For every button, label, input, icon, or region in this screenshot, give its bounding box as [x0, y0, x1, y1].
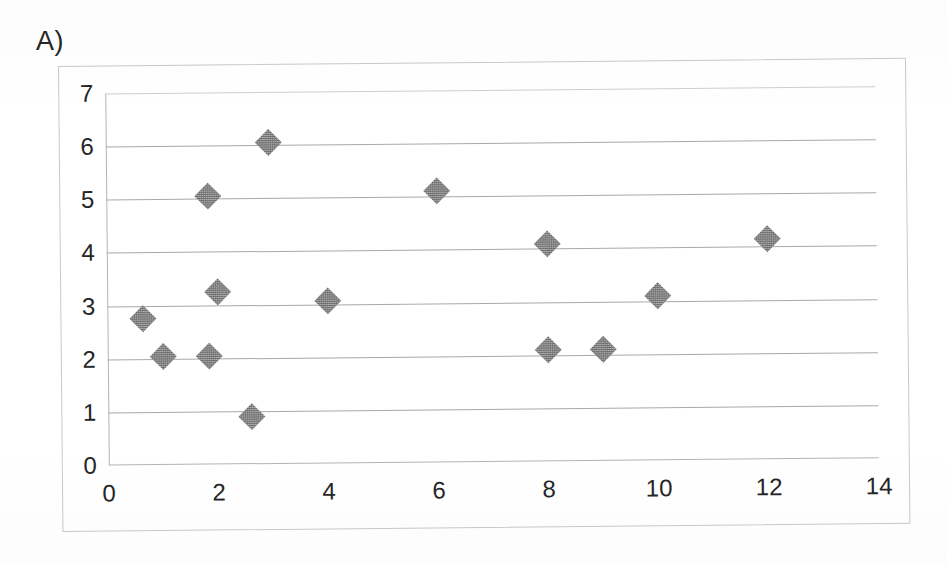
y-tick-label-7: 7 — [80, 82, 94, 106]
data-point — [423, 178, 450, 205]
data-point — [255, 129, 282, 156]
gridline-y-1 — [108, 405, 878, 413]
data-point — [130, 306, 157, 333]
y-tick-label-2: 2 — [82, 347, 96, 371]
x-tick-label-12: 12 — [756, 475, 783, 499]
y-axis-line — [105, 94, 110, 466]
y-tick-label-3: 3 — [82, 294, 96, 318]
x-tick-label-10: 10 — [646, 476, 673, 500]
y-tick-label-1: 1 — [83, 400, 97, 424]
data-point — [195, 183, 222, 210]
gridline-y-2 — [108, 352, 878, 360]
chart-canvas: 01234567 02468101214 — [58, 58, 910, 532]
x-tick-label-2: 2 — [212, 480, 226, 504]
y-tick-label-0: 0 — [83, 454, 97, 478]
gridline-y-7 — [105, 86, 875, 94]
x-tick-label-0: 0 — [102, 481, 116, 505]
gridline-y-5 — [106, 192, 876, 200]
x-tick-label-8: 8 — [542, 477, 556, 501]
data-point — [204, 278, 231, 305]
x-tick-label-6: 6 — [432, 478, 446, 502]
y-tick-label-4: 4 — [81, 241, 95, 265]
plot-area: 01234567 02468101214 — [105, 86, 879, 465]
data-point — [149, 343, 176, 370]
data-point — [533, 230, 560, 257]
x-tick-label-4: 4 — [322, 479, 336, 503]
x-axis-line — [109, 457, 879, 465]
x-tick-label-14: 14 — [866, 474, 893, 498]
gridline-y-6 — [106, 139, 876, 147]
data-point — [644, 282, 671, 309]
data-point — [314, 288, 341, 315]
data-point — [196, 342, 223, 369]
data-point — [753, 225, 780, 252]
panel-label: A) — [36, 28, 64, 55]
data-point — [589, 336, 616, 363]
data-point — [534, 336, 561, 363]
gridlines — [105, 86, 875, 93]
data-point — [238, 403, 265, 430]
figure-panel: A) 01234567 02468101214 — [0, 0, 947, 564]
y-tick-label-6: 6 — [80, 135, 94, 159]
y-tick-label-5: 5 — [81, 188, 95, 212]
